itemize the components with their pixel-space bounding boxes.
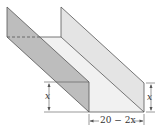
right-height-label: x: [147, 93, 152, 102]
left-height-label: x: [45, 92, 50, 101]
right-arrow-down-icon: [150, 107, 153, 111]
left-arrow-down-icon: [48, 107, 51, 111]
base-width-label: 20 − 2x: [100, 116, 136, 125]
gutter-diagram: [0, 0, 159, 133]
base-arrow-right-icon: [140, 120, 144, 123]
base-arrow-left-icon: [90, 120, 94, 123]
left-arrow-up-icon: [48, 83, 51, 87]
right-arrow-up-icon: [150, 84, 153, 88]
